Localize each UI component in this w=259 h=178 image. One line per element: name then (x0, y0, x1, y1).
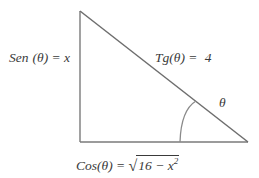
square-root-expression: √16 − x2 (129, 155, 180, 173)
radicand-exponent: 2 (174, 156, 179, 166)
tangent-value: 4 (205, 50, 212, 65)
radicand-base: 16 − x (138, 158, 173, 173)
sine-equals: = (48, 50, 64, 65)
tangent-equals: = (185, 50, 201, 65)
cosine-argument: (θ) (97, 158, 113, 173)
sine-function-name: Sen (9, 50, 29, 65)
radical-icon: √ (129, 158, 138, 174)
radicand: 16 − x2 (136, 155, 179, 172)
tangent-function-name: Tg (155, 50, 169, 65)
triangle-figure (0, 0, 259, 178)
label-tangent-value: Tg(θ) = 4 (155, 51, 212, 65)
label-sine-opposite: Sen(θ) = x (9, 51, 70, 65)
hypotenuse (80, 11, 248, 142)
cosine-function-name: Cos (76, 158, 97, 173)
sine-argument: (θ) (33, 50, 49, 65)
angle-arc (180, 101, 196, 142)
tangent-argument: (θ) (169, 50, 185, 65)
label-angle-theta: θ (219, 96, 226, 110)
sine-value: x (64, 50, 70, 65)
cosine-equals: = (113, 158, 129, 173)
diagram-canvas: Sen(θ) = x Tg(θ) = 4 θ Cos(θ) = √16 − x2 (0, 0, 259, 178)
label-cosine-adjacent: Cos(θ) = √16 − x2 (76, 155, 179, 173)
